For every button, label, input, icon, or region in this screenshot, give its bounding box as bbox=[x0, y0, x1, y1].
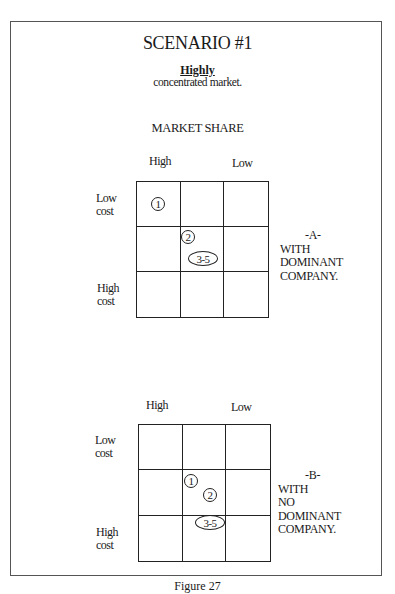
marker-company-1: 1 bbox=[184, 474, 198, 488]
side-label-a: -A- WITH DOMINANT COMPANY. bbox=[280, 229, 343, 283]
row-label-high: High cost bbox=[97, 282, 119, 308]
grid-cell bbox=[224, 182, 268, 227]
marker-company-2: 2 bbox=[203, 488, 217, 502]
scenario-title: SCENARIO #1 bbox=[0, 33, 395, 54]
col-label-high: High bbox=[149, 155, 171, 168]
marker-companies-3-5: 3-5 bbox=[188, 251, 218, 266]
market-share-heading: MARKET SHARE bbox=[0, 121, 395, 136]
marker-company-2: 2 bbox=[181, 230, 195, 244]
grid-cell bbox=[226, 425, 270, 470]
row-label-low: Low cost bbox=[96, 192, 117, 218]
grid-cell bbox=[226, 470, 270, 515]
marker-companies-3-5: 3-5 bbox=[195, 515, 225, 530]
grid-cell bbox=[137, 272, 181, 317]
row-label-low: Low cost bbox=[95, 434, 116, 460]
grid-cell bbox=[139, 425, 183, 470]
grid-cell bbox=[224, 227, 268, 272]
grid-cell bbox=[139, 516, 183, 561]
side-letter: -A- bbox=[280, 229, 343, 243]
grid-cell bbox=[183, 425, 227, 470]
col-label-high: High bbox=[146, 399, 168, 412]
side-letter: -B- bbox=[278, 469, 341, 483]
grid-cell bbox=[181, 182, 225, 227]
figure-caption: Figure 27 bbox=[0, 579, 395, 594]
marker-company-1: 1 bbox=[151, 197, 165, 211]
side-label-b: -B- WITH NO DOMINANT COMPANY. bbox=[278, 469, 341, 537]
col-label-low: Low bbox=[231, 401, 252, 414]
subtitle-text: concentrated market. bbox=[0, 76, 395, 88]
grid-cell bbox=[226, 516, 270, 561]
grid-cell bbox=[137, 227, 181, 272]
grid-cell bbox=[139, 470, 183, 515]
grid-cell bbox=[181, 272, 225, 317]
row-label-high: High cost bbox=[96, 526, 118, 552]
grid-cell bbox=[224, 272, 268, 317]
col-label-low: Low bbox=[232, 157, 253, 170]
